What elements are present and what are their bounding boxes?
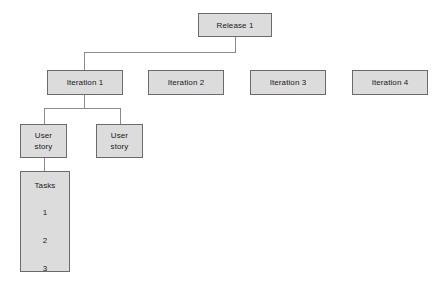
diagram-canvas: Release 1 Iteration 1 Iteration 2 Iterat… (0, 0, 442, 297)
task-item-1: 1 (43, 208, 48, 218)
task-item-2: 2 (43, 236, 48, 246)
edge-release-across (84, 52, 236, 53)
node-iteration-4[interactable]: Iteration 4 (352, 70, 428, 95)
node-release-1[interactable]: Release 1 (198, 13, 272, 37)
node-user-story-2[interactable]: User story (96, 124, 143, 158)
node-user-story-1[interactable]: User story (20, 124, 67, 158)
edge-to-user-story-2 (120, 108, 121, 124)
task-item-3: 3 (43, 264, 48, 274)
node-iteration-1[interactable]: Iteration 1 (47, 70, 123, 95)
edge-release-down (235, 37, 236, 53)
tasks-title: Tasks (35, 181, 56, 191)
edge-iteration-1-down (84, 95, 85, 109)
node-iteration-2[interactable]: Iteration 2 (148, 70, 224, 95)
edge-release-to-iteration-1 (84, 52, 85, 70)
edge-user-story-to-tasks (44, 158, 45, 171)
node-iteration-3[interactable]: Iteration 3 (250, 70, 326, 95)
edge-to-user-story-1 (44, 108, 45, 124)
edge-user-stories-across (44, 108, 121, 109)
node-tasks[interactable]: Tasks 1 2 3 (20, 171, 70, 272)
